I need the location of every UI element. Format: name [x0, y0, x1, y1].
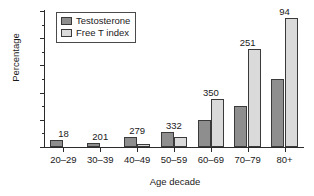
- bar-testosterone: [124, 137, 137, 147]
- legend-item-free-t-index: Free T index: [61, 27, 130, 39]
- bar-group: [192, 11, 229, 147]
- x-tick: [285, 147, 286, 152]
- bar-testosterone: [271, 79, 284, 147]
- legend-label-free-t-index: Free T index: [76, 28, 129, 38]
- bar-free-t-index: [248, 49, 261, 147]
- bar-chart: Percentage Age decade 02040608010020–291…: [0, 0, 314, 196]
- group-count-label: 350: [188, 87, 233, 98]
- legend-swatch-testosterone: [61, 17, 72, 25]
- bar-testosterone: [87, 143, 100, 147]
- legend-item-testosterone: Testosterone: [61, 15, 130, 27]
- bar-testosterone: [50, 140, 63, 147]
- group-count-label: 332: [152, 120, 197, 131]
- x-axis-title: Age decade: [44, 176, 306, 187]
- bar-testosterone: [234, 106, 247, 147]
- y-axis-title: Percentage: [10, 15, 21, 101]
- bar-group: [229, 11, 266, 147]
- group-count-label: 94: [262, 6, 307, 17]
- x-tick: [248, 147, 249, 152]
- bar-free-t-index: [285, 18, 298, 147]
- group-count-label: 251: [225, 37, 270, 48]
- bar-free-t-index: [137, 144, 150, 147]
- x-tick: [63, 147, 64, 152]
- bar-testosterone: [198, 120, 211, 147]
- chart-legend: Testosterone Free T index: [56, 12, 136, 43]
- legend-swatch-free-t-index: [61, 29, 72, 37]
- x-tick: [137, 147, 138, 152]
- bar-group: [266, 11, 303, 147]
- bar-free-t-index: [174, 137, 187, 147]
- legend-label-testosterone: Testosterone: [76, 16, 130, 26]
- x-tick: [100, 147, 101, 152]
- y-tick-major: [40, 147, 45, 148]
- x-tick: [174, 147, 175, 152]
- x-tick-label: 80+: [262, 154, 307, 165]
- bar-free-t-index: [211, 99, 224, 147]
- x-tick: [211, 147, 212, 152]
- bar-testosterone: [161, 132, 174, 147]
